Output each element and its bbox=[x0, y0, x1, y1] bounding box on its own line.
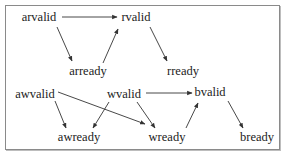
arrow-icon-rvalid-to-rready bbox=[150, 27, 167, 61]
node-arvalid: arvalid bbox=[22, 10, 57, 24]
arrow-icon-arready-to-rvalid bbox=[103, 29, 118, 63]
node-wready: wready bbox=[149, 130, 187, 144]
arrow-icon-wvalid-to-wready bbox=[137, 102, 155, 128]
arrow-icon-wready-to-bvalid bbox=[186, 103, 198, 128]
node-wvalid: wvalid bbox=[107, 87, 142, 101]
node-arready: arready bbox=[69, 64, 107, 78]
arrow-icon-arvalid-to-arready bbox=[57, 27, 72, 61]
node-bvalid: bvalid bbox=[194, 85, 226, 99]
diagram-canvas: arvalidrvalidarreadyrreadyawvalidwvalidb… bbox=[0, 0, 284, 154]
arrow-icon-bvalid-to-bready bbox=[228, 101, 243, 128]
node-rready: rready bbox=[167, 64, 200, 78]
signal-dependency-diagram: arvalidrvalidarreadyrreadyawvalidwvalidb… bbox=[0, 0, 284, 154]
node-bready: bready bbox=[240, 130, 275, 144]
arrow-icon-awvalid-to-awready bbox=[55, 101, 66, 128]
node-awvalid: awvalid bbox=[15, 87, 55, 101]
node-awready: awready bbox=[58, 130, 101, 144]
node-rvalid: rvalid bbox=[121, 10, 151, 24]
